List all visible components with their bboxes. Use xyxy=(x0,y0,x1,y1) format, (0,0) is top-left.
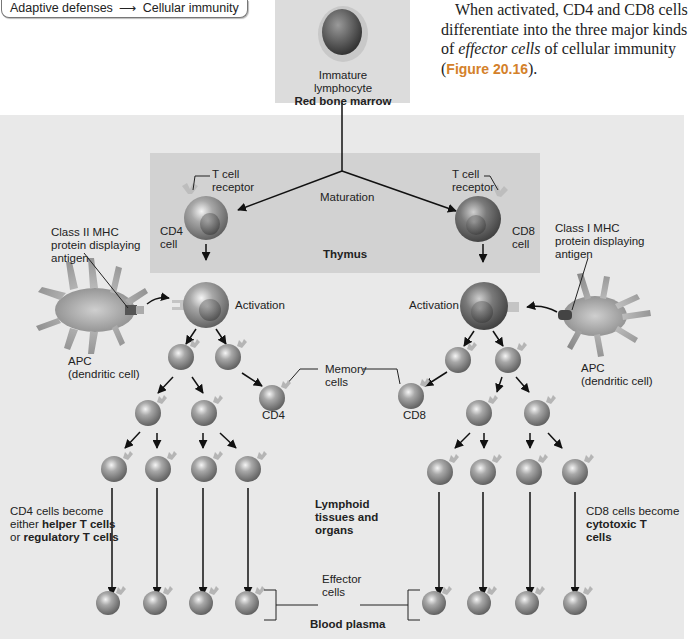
arrow xyxy=(493,331,503,346)
arrow xyxy=(125,432,140,448)
cd4-effector-cell-icon xyxy=(96,586,126,615)
effector-cells-label: Effectorcells xyxy=(322,573,361,599)
memory-cells-label: Memorycells xyxy=(325,363,367,389)
effector-bracket-right xyxy=(408,590,420,620)
arrow xyxy=(158,377,173,393)
mhc2-label: Class II MHCprotein displayingantigen xyxy=(51,226,141,265)
cd8-effector-cell-icon xyxy=(422,586,452,615)
cd4-cell xyxy=(135,395,167,426)
arrow xyxy=(192,377,203,393)
cd8-cell xyxy=(427,454,459,485)
cd4-effector-cell-icon xyxy=(235,586,265,615)
immature-lymphocyte-label: Immaturelymphocyte xyxy=(304,69,382,95)
arrow xyxy=(220,433,236,448)
cd8-effector-cell-icon xyxy=(467,586,497,615)
cd4-effector-cell-icon xyxy=(143,586,173,615)
cd8-cell xyxy=(524,395,556,426)
blood-plasma-label: Blood plasma xyxy=(310,618,385,631)
cd8-become-label: CD8 cells become cytotoxic T cells xyxy=(586,505,679,544)
cd8-daughter-cell xyxy=(495,342,527,373)
arrow xyxy=(216,329,226,344)
cd8-cell-label: CD8cell xyxy=(512,225,535,251)
cd4-cell xyxy=(191,395,223,426)
arrow xyxy=(186,329,196,344)
cd4-cell xyxy=(191,451,223,482)
thymus-label: Thymus xyxy=(323,248,367,261)
memory-cd8-cell-icon xyxy=(398,378,430,409)
cd8-effector-cell-icon xyxy=(563,586,593,615)
lymphoid-tissues-label: Lymphoidtissues andorgans xyxy=(315,498,378,537)
effector-bracket-left xyxy=(264,590,276,620)
tcr-left-label: T cellreceptor xyxy=(212,168,254,194)
cd4-become-label: CD4 cells become either helper T cells o… xyxy=(10,505,119,544)
memory-cd4-label: CD4 xyxy=(262,409,285,422)
cd4-daughter-cell xyxy=(168,339,200,370)
arrow xyxy=(455,433,470,448)
cd4-effector-cell-icon xyxy=(189,586,219,615)
apc-right-label: APC(dendritic cell) xyxy=(581,362,653,388)
red-bone-marrow-label: Red bone marrow xyxy=(282,95,404,108)
activation-left-label: Activation xyxy=(235,299,285,312)
memory-cd4-cell-icon xyxy=(259,380,291,411)
mhc1-label: Class I MHCprotein displayingantigen xyxy=(555,222,645,261)
arrow xyxy=(516,377,529,392)
cd4-cell xyxy=(101,451,133,482)
arrow xyxy=(497,377,502,392)
arrow xyxy=(242,373,262,386)
cd8-daughter-cell xyxy=(445,342,477,373)
cd8-cell xyxy=(562,454,594,485)
cd4-cell-label: CD4cell xyxy=(160,225,183,251)
cd8-cell xyxy=(516,454,548,485)
apc-left-label: APC(dendritic cell) xyxy=(68,355,140,381)
cd4-cell xyxy=(145,451,177,482)
cd8-cell xyxy=(466,395,498,426)
maturation-label: Maturation xyxy=(320,191,374,204)
activation-right-label: Activation xyxy=(409,299,459,312)
memory-cd8-label: CD8 xyxy=(403,409,426,422)
arrow xyxy=(548,433,562,448)
cd4-cell xyxy=(235,451,267,482)
cd4-daughter-cell xyxy=(215,339,247,370)
arrow xyxy=(425,372,447,386)
tcr-right-label: T cellreceptor xyxy=(452,168,494,194)
cd8-cell xyxy=(470,454,502,485)
